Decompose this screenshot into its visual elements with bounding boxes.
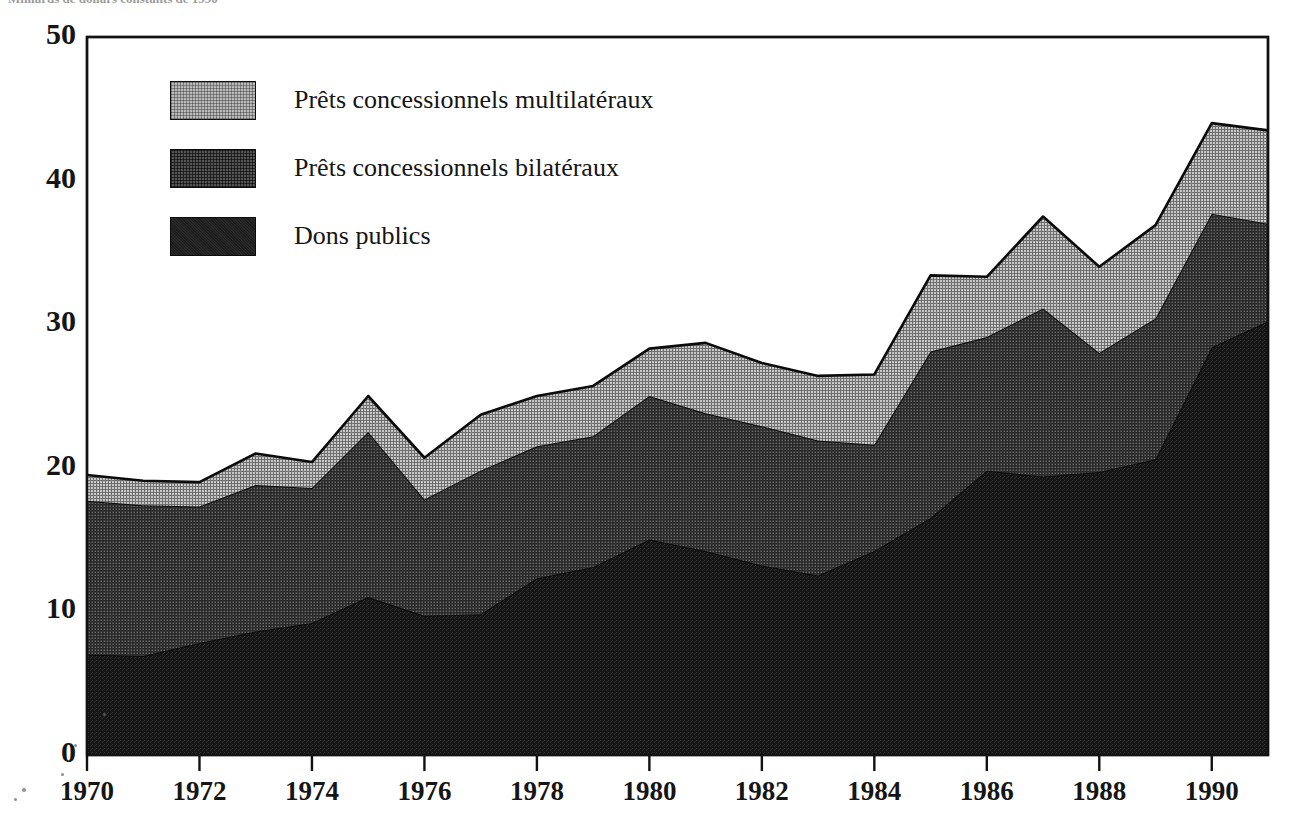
legend-item-bilateral[interactable]: Prêts concessionnels bilatéraux bbox=[170, 134, 810, 202]
y-tick-label-50: 50 bbox=[12, 17, 76, 51]
x-tick-label-1990: 1990 bbox=[1152, 776, 1272, 807]
y-tick-label-0: 0 bbox=[12, 735, 76, 769]
x-tick-label-1972: 1972 bbox=[139, 776, 259, 807]
scan-speck bbox=[74, 744, 77, 747]
x-tick-label-1986: 1986 bbox=[927, 776, 1047, 807]
scan-speck bbox=[14, 798, 17, 801]
y-tick-label-20: 20 bbox=[12, 448, 76, 482]
y-tick-label-10: 10 bbox=[12, 591, 76, 625]
chart-legend: Prêts concessionnels multilatéraux Prêts… bbox=[170, 66, 810, 270]
legend-label-bilateral: Prêts concessionnels bilatéraux bbox=[294, 153, 619, 183]
x-tick-label-1982: 1982 bbox=[702, 776, 822, 807]
y-tick-label-40: 40 bbox=[12, 161, 76, 195]
x-tick-label-1980: 1980 bbox=[589, 776, 709, 807]
x-tick-label-1988: 1988 bbox=[1039, 776, 1159, 807]
x-tick-label-1976: 1976 bbox=[364, 776, 484, 807]
legend-swatch-bilateral-icon bbox=[170, 149, 256, 188]
x-axis-ticks bbox=[87, 756, 1212, 771]
legend-item-grants[interactable]: Dons publics bbox=[170, 202, 810, 270]
stacked-area-chart: 01020304050 1970197219741976197819801982… bbox=[0, 0, 1294, 837]
legend-swatch-multilateral-icon bbox=[170, 81, 256, 120]
scan-speck bbox=[22, 788, 26, 792]
scan-speck bbox=[61, 773, 64, 776]
legend-label-multilateral: Prêts concessionnels multilatéraux bbox=[294, 85, 654, 115]
scan-speck bbox=[103, 713, 106, 716]
y-tick-label-30: 30 bbox=[12, 304, 76, 338]
x-tick-label-1974: 1974 bbox=[252, 776, 372, 807]
x-tick-label-1978: 1978 bbox=[477, 776, 597, 807]
legend-swatch-grants-icon bbox=[170, 217, 256, 256]
legend-label-grants: Dons publics bbox=[294, 221, 431, 251]
x-tick-label-1970: 1970 bbox=[27, 776, 147, 807]
x-tick-label-1984: 1984 bbox=[814, 776, 934, 807]
legend-item-multilateral[interactable]: Prêts concessionnels multilatéraux bbox=[170, 66, 810, 134]
